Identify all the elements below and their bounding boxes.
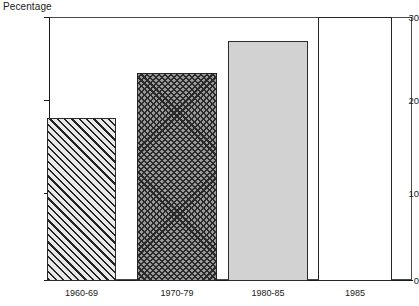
x-tick-label: 1980-85 [228, 288, 308, 298]
x-tick-label: 1970-79 [137, 288, 217, 298]
x-tick-label: 1985 [318, 288, 392, 298]
y-tick-mark [44, 17, 50, 18]
y-axis-title: Pecentage [3, 1, 52, 12]
x-tick-label: 1960-69 [47, 288, 116, 298]
bar-1960-69[interactable] [47, 118, 116, 281]
bar-1980-85[interactable] [228, 41, 308, 281]
y-tick-mark [44, 100, 50, 101]
bar-1970-79[interactable] [137, 73, 217, 281]
bar-chart: Pecentage 3020100 1960-691970-791980-851… [0, 0, 419, 306]
bar-1985[interactable] [318, 17, 392, 281]
